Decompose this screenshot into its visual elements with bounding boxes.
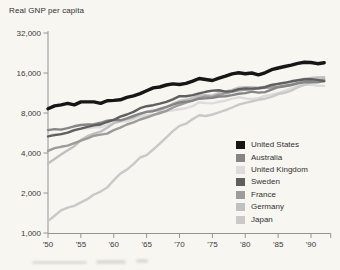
legend-label-australia: Australia	[251, 154, 282, 162]
legend-swatch-australia	[236, 154, 245, 162]
legend-item-japan: Japan	[236, 213, 308, 225]
scan-artifact	[32, 261, 87, 264]
legend-label-germany: Germany	[251, 203, 284, 211]
legend-label-japan: Japan	[251, 216, 273, 224]
legend-swatch-sweden	[236, 178, 245, 186]
y-axis-label: 8,000	[21, 109, 42, 118]
gnp-line-chart: 32,00016,0008,0004,0002,0001,000'50'55'6…	[0, 0, 340, 270]
scan-artifact	[96, 260, 126, 264]
x-axis-label: '80	[240, 240, 251, 249]
legend-swatch-germany	[236, 203, 245, 211]
y-axis-label: 16,000	[17, 69, 42, 78]
legend-label-united-kingdom: United Kingdom	[251, 166, 308, 174]
legend-item-australia: Australia	[236, 151, 308, 163]
legend-label-sweden: Sweden	[251, 178, 280, 186]
x-axis-label: '65	[141, 240, 152, 249]
x-axis-label: '85	[273, 240, 284, 249]
legend-swatch-japan	[236, 216, 245, 224]
y-axis-label: 4,000	[21, 149, 42, 158]
x-axis-label: '55	[76, 240, 87, 249]
x-axis-label: '75	[207, 240, 218, 249]
y-axis-label: 2,000	[21, 189, 42, 198]
figure-real-gnp-per-capita: Real GNP per capita 32,00016,0008,0004,0…	[0, 0, 340, 270]
legend-item-united-kingdom: United Kingdom	[236, 164, 308, 176]
chart-legend: United StatesAustraliaUnited KingdomSwed…	[236, 139, 308, 226]
legend-item-united-states: United States	[236, 139, 308, 151]
x-axis-label: '60	[109, 240, 120, 249]
y-axis-label: 32,000	[17, 29, 42, 38]
legend-item-germany: Germany	[236, 201, 308, 213]
legend-item-france: France	[236, 189, 308, 201]
legend-label-united-states: United States	[251, 141, 299, 149]
x-axis-label: '90	[306, 240, 317, 249]
x-axis-label: '70	[174, 240, 185, 249]
x-axis-label: '50	[43, 240, 54, 249]
legend-label-france: France	[251, 191, 276, 199]
y-axis-label: 1,000	[21, 229, 42, 238]
legend-swatch-united-states	[236, 141, 245, 149]
legend-swatch-united-kingdom	[236, 166, 245, 174]
legend-swatch-france	[236, 191, 245, 199]
legend-item-sweden: Sweden	[236, 176, 308, 188]
scan-artifact	[136, 259, 148, 263]
